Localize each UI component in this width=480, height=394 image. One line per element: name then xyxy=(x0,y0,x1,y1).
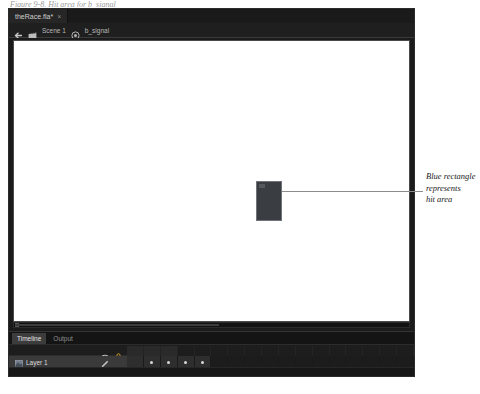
ruler-cell[interactable] xyxy=(296,346,313,356)
layer-label: Layer 1 xyxy=(26,358,48,367)
document-tab-bar: theRace.fla* × xyxy=(9,9,414,24)
ruler-cell[interactable] xyxy=(178,346,195,356)
keyframe-dot xyxy=(167,361,170,364)
stage-horizontal-scrollbar[interactable] xyxy=(13,322,410,328)
keyframe-dot xyxy=(150,361,153,364)
tab-output-label: Output xyxy=(53,335,73,342)
ruler-cell[interactable] xyxy=(380,346,397,356)
ruler-cell[interactable] xyxy=(245,346,262,356)
close-icon[interactable]: × xyxy=(57,13,61,20)
ruler-cell[interactable] xyxy=(144,346,161,356)
movie-clip-symbol-icon xyxy=(71,26,80,35)
timeline-status-strip xyxy=(9,367,414,376)
tab-output[interactable]: Output xyxy=(48,333,78,344)
ruler-cell[interactable] xyxy=(228,346,245,356)
ruler-cell[interactable] xyxy=(211,346,228,356)
ruler-cell[interactable] xyxy=(346,346,363,356)
ruler-cell[interactable] xyxy=(313,346,330,356)
keyframe-dot xyxy=(184,361,187,364)
registration-marker xyxy=(259,184,265,188)
ruler-cell[interactable] xyxy=(330,346,347,356)
tab-timeline[interactable]: Timeline xyxy=(12,333,46,344)
ruler-cell[interactable] xyxy=(161,346,178,356)
edit-breadcrumb-bar: Scene 1 b_signal xyxy=(9,23,414,38)
stage-container xyxy=(9,38,414,328)
scrollbar-thumb[interactable] xyxy=(15,324,219,326)
ruler-cell[interactable] xyxy=(262,346,279,356)
document-tab-label: theRace.fla* xyxy=(15,10,53,23)
keyframe-dot xyxy=(201,361,204,364)
hit-area-rectangle[interactable] xyxy=(256,181,282,221)
ruler-cell[interactable] xyxy=(195,346,212,356)
ruler-cell[interactable] xyxy=(279,346,296,356)
application-window: theRace.fla* × Scene 1 b_signal xyxy=(8,8,415,377)
breadcrumb-scene-label[interactable]: Scene 1 xyxy=(42,26,66,35)
stage-canvas[interactable] xyxy=(13,40,410,322)
callout-line-2: represents xyxy=(426,183,480,195)
callout-leader-line xyxy=(282,191,423,192)
timeline-panel: Timeline Output xyxy=(9,331,414,376)
back-arrow-icon[interactable] xyxy=(14,26,23,35)
ruler-cell[interactable] xyxy=(127,346,144,356)
callout-line-1: Blue rectangle xyxy=(426,171,480,183)
breadcrumb-symbol-label[interactable]: b_signal xyxy=(85,26,109,35)
callout-annotation: Blue rectangle represents hit area xyxy=(426,171,480,206)
ruler-cell[interactable] xyxy=(363,346,380,356)
figure-caption-sliver: Figure 9-8. Hit area for b_signal xyxy=(10,0,210,7)
timeline-panel-tabs: Timeline Output xyxy=(9,332,414,344)
callout-line-3: hit area xyxy=(426,194,480,206)
timeline-frame-ruler[interactable] xyxy=(127,346,414,356)
ruler-cell[interactable] xyxy=(397,346,414,356)
document-tab-therace[interactable]: theRace.fla* × xyxy=(9,9,68,23)
tab-timeline-label: Timeline xyxy=(17,335,41,342)
scene-clapboard-icon xyxy=(28,26,37,35)
